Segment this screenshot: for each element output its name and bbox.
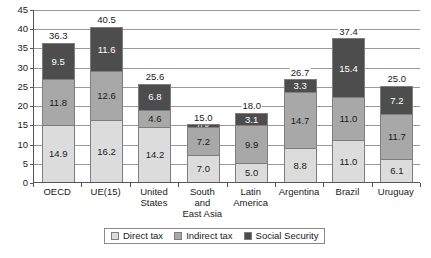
bar-segment-indirect[interactable]: 14.7 xyxy=(284,92,317,149)
y-axis-tick-label: 30 xyxy=(17,63,28,73)
bar-total-label: 15.0 xyxy=(193,113,214,123)
x-axis-tick xyxy=(420,183,421,187)
legend-label: Direct tax xyxy=(123,231,163,241)
bar-segment-social[interactable]: 15.4 xyxy=(332,38,365,97)
x-axis-category-label: Argentina xyxy=(275,186,323,197)
bar-group[interactable]: 6.84.614.225.6 xyxy=(138,84,171,182)
bar-segment-social[interactable]: 9.5 xyxy=(42,43,75,80)
bar-total-label: 37.4 xyxy=(338,27,359,37)
bar-segment-social[interactable]: 7.2 xyxy=(380,86,413,114)
y-axis-tick-label: 35 xyxy=(17,44,28,54)
x-axis-category-line: Brazil xyxy=(323,186,371,197)
bar-group[interactable]: 7.211.76.125.0 xyxy=(380,86,413,182)
bar-series-container: 9.511.814.936.311.612.616.240.56.84.614.… xyxy=(34,10,420,182)
legend-swatch-direct xyxy=(111,232,119,240)
legend-item[interactable]: Direct tax xyxy=(111,231,163,241)
x-axis-category-line: Uruguay xyxy=(372,186,420,197)
y-axis-tick-label: 10 xyxy=(17,140,28,150)
chart-legend: Direct taxIndirect taxSocial Security xyxy=(104,228,325,244)
bar-segment-direct[interactable]: 5.0 xyxy=(235,163,268,182)
stacked-bar-chart: 051015202530354045 9.511.814.936.311.612… xyxy=(0,0,431,258)
x-axis-category-label: UnitedStates xyxy=(130,186,178,208)
bar-total-label: 26.7 xyxy=(290,68,311,78)
bar-group[interactable]: 3.314.78.826.7 xyxy=(284,79,317,182)
bar-segment-indirect[interactable]: 7.2 xyxy=(187,127,220,155)
bar-segment-indirect[interactable]: 12.6 xyxy=(90,71,123,119)
x-axis-category-label: LatinAmerica xyxy=(227,186,275,208)
x-axis-category-label: SouthandEast Asia xyxy=(178,186,226,219)
bar-segment-indirect[interactable]: 11.0 xyxy=(332,97,365,139)
x-axis-category-line: OECD xyxy=(33,186,81,197)
x-axis-category-line: UE(15) xyxy=(81,186,129,197)
bar-segment-direct[interactable]: 6.1 xyxy=(380,159,413,182)
bar-segment-indirect[interactable]: 11.8 xyxy=(42,79,75,124)
x-axis-category-line: Latin xyxy=(227,186,275,197)
bar-group[interactable]: 0.87.27.015.0 xyxy=(187,124,220,182)
bar-segment-direct[interactable]: 7.0 xyxy=(187,155,220,182)
bar-group[interactable]: 9.511.814.936.3 xyxy=(42,43,75,182)
bar-total-label: 36.3 xyxy=(48,31,69,41)
x-axis-category-label: Brazil xyxy=(323,186,371,197)
y-axis-tick-label: 15 xyxy=(17,121,28,131)
legend-item[interactable]: Indirect tax xyxy=(174,231,232,241)
legend-swatch-social xyxy=(244,232,252,240)
x-axis-category-line: States xyxy=(130,197,178,208)
legend-item[interactable]: Social Security xyxy=(244,231,319,241)
x-axis-category-label: Uruguay xyxy=(372,186,420,197)
x-axis-category-line: United xyxy=(130,186,178,197)
bar-total-label: 40.5 xyxy=(96,15,117,25)
legend-label: Social Security xyxy=(256,231,319,241)
x-axis-category-line: Argentina xyxy=(275,186,323,197)
bar-group[interactable]: 15.411.011.037.4 xyxy=(332,38,365,182)
y-axis-tick-label: 5 xyxy=(23,159,28,169)
y-axis-tick-label: 0 xyxy=(23,178,28,188)
x-axis-category-line: South xyxy=(178,186,226,197)
bar-segment-direct[interactable]: 14.9 xyxy=(42,125,75,182)
x-axis-category-label: UE(15) xyxy=(81,186,129,197)
bar-segment-social[interactable]: 3.3 xyxy=(284,79,317,92)
y-axis-labels: 051015202530354045 xyxy=(0,0,31,200)
x-axis-category-line: America xyxy=(227,197,275,208)
bar-segment-social[interactable]: 3.1 xyxy=(235,113,268,125)
bar-segment-direct[interactable]: 16.2 xyxy=(90,120,123,182)
bar-segment-direct[interactable]: 11.0 xyxy=(332,140,365,182)
plot-area: 9.511.814.936.311.612.616.240.56.84.614.… xyxy=(33,10,420,183)
bar-segment-indirect[interactable]: 11.7 xyxy=(380,114,413,159)
bar-total-label: 18.0 xyxy=(241,101,262,111)
y-axis-tick-label: 45 xyxy=(17,5,28,15)
bar-segment-social[interactable]: 6.8 xyxy=(138,84,171,110)
x-axis-category-label: OECD xyxy=(33,186,81,197)
legend-swatch-indirect xyxy=(174,232,182,240)
x-axis-category-line: East Asia xyxy=(178,208,226,219)
x-axis-labels: OECDUE(15)UnitedStatesSouthandEast AsiaL… xyxy=(33,186,420,226)
bar-total-label: 25.0 xyxy=(387,74,408,84)
bar-segment-direct[interactable]: 14.2 xyxy=(138,127,171,182)
y-axis-tick-label: 40 xyxy=(17,24,28,34)
bar-group[interactable]: 11.612.616.240.5 xyxy=(90,27,123,182)
x-axis-category-line: and xyxy=(178,197,226,208)
bar-segment-indirect[interactable]: 4.6 xyxy=(138,110,171,128)
y-axis-tick-label: 25 xyxy=(17,82,28,92)
bar-segment-indirect[interactable]: 9.9 xyxy=(235,125,268,163)
bar-total-label: 25.6 xyxy=(145,72,166,82)
bar-segment-social[interactable]: 11.6 xyxy=(90,27,123,72)
bar-segment-direct[interactable]: 8.8 xyxy=(284,148,317,182)
legend-label: Indirect tax xyxy=(186,231,232,241)
y-axis-tick-label: 20 xyxy=(17,101,28,111)
bar-group[interactable]: 3.19.95.018.0 xyxy=(235,113,268,182)
